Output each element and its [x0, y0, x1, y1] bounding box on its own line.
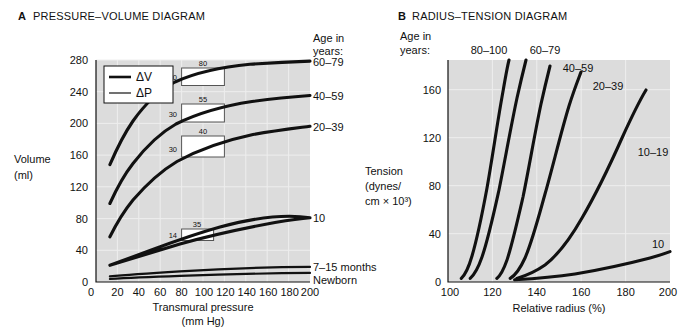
- panel-b-x-ticks: 100 120 140 160 180 200: [441, 286, 677, 298]
- panel-b-label-20-39: 20–39: [593, 80, 624, 92]
- panel-a-ytick: 120: [70, 181, 88, 193]
- panel-b-age-header-line1: Age in: [400, 30, 431, 42]
- panel-a-xtick: 20: [111, 286, 123, 298]
- panel-b-ytick: 80: [429, 180, 441, 192]
- panel-a-xtick: 180: [280, 286, 298, 298]
- panel-a-xtick: 140: [238, 286, 256, 298]
- panel-a-xtick: 60: [154, 286, 166, 298]
- panel-b-xtick: 140: [528, 286, 546, 298]
- panel-a-xtick: 160: [259, 286, 277, 298]
- panel-a-label-7-15-months: 7–15 months: [313, 261, 377, 273]
- panel-a-ytick: 240: [70, 86, 88, 98]
- panel-b-label-80-100: 80–100: [471, 44, 508, 56]
- panel-a-ytick: 40: [76, 244, 88, 256]
- panel-a-xtick: 120: [216, 286, 234, 298]
- legend-label-dv: ΔV: [136, 70, 152, 84]
- panel-b-letter: B: [398, 10, 406, 22]
- panel-b-plot-area: [448, 60, 670, 282]
- panel-b-ytick: 160: [423, 84, 441, 96]
- legend-label-dp: ΔP: [136, 86, 152, 100]
- panel-a-xlabel-line2: (mm Hg): [182, 315, 225, 327]
- figure-container: A PRESSURE–VOLUME DIAGRAM Age in years:: [0, 0, 690, 330]
- panel-b-xtick: 100: [441, 286, 459, 298]
- panel-b-xtick: 200: [659, 286, 677, 298]
- panel-a-xtick: 200: [301, 286, 319, 298]
- panel-a-y-ticks: 280 240 200 160 120 80 40 0: [70, 54, 88, 288]
- panel-a-annot-dp: 14: [169, 231, 177, 240]
- panel-a-letter: A: [18, 10, 26, 22]
- panel-a-annot-dv: 35: [193, 220, 201, 229]
- panel-a-ytick: 200: [70, 117, 88, 129]
- panel-b-xtick: 180: [616, 286, 634, 298]
- panel-b-xtick: 120: [483, 286, 501, 298]
- figure-svg: A PRESSURE–VOLUME DIAGRAM Age in years:: [0, 0, 690, 330]
- panel-b-ylabel-line2: (dynes/: [365, 180, 402, 192]
- panel-b-ytick: 120: [423, 132, 441, 144]
- panel-a-annot-dp: 30: [169, 145, 177, 154]
- panel-a-ytick: 80: [76, 213, 88, 225]
- panel-a-xlabel-line1: Transmural pressure: [152, 301, 253, 313]
- panel-b-ylabel-line3: cm × 10³): [365, 195, 412, 207]
- panel-a-legend: ΔV ΔP: [104, 66, 173, 103]
- panel-b-label-10-19: 10–19: [638, 146, 669, 158]
- panel-b-label-10: 10: [652, 238, 664, 250]
- panel-a-label-newborn: Newborn: [313, 274, 357, 286]
- panel-b-title: RADIUS–TENSION DIAGRAM: [412, 10, 567, 22]
- panel-a-label-10: 10: [313, 212, 325, 224]
- panel-a-ylabel-line1: Volume: [14, 153, 51, 165]
- panel-b-label-40-59: 40–59: [563, 62, 594, 74]
- panel-a: A PRESSURE–VOLUME DIAGRAM Age in years:: [14, 10, 377, 327]
- panel-a-ylabel-line2: (ml): [14, 169, 33, 181]
- panel-b-age-header-line2: years:: [400, 44, 430, 56]
- panel-a-xtick: 100: [195, 286, 213, 298]
- panel-a-xtick: 40: [133, 286, 145, 298]
- panel-a-ytick: 160: [70, 149, 88, 161]
- panel-b: B RADIUS–TENSION DIAGRAM Age in years:: [365, 10, 677, 314]
- panel-b-y-ticks: 160 120 80 40 0: [423, 84, 441, 288]
- panel-a-ytick: 280: [70, 54, 88, 66]
- panel-a-annot-dp: 30: [169, 110, 177, 119]
- panel-a-annot-dv: 40: [199, 127, 207, 136]
- panel-a-xtick: 80: [175, 286, 187, 298]
- panel-a-label-40-59: 40–59: [313, 90, 344, 102]
- panel-a-age-header-line1: Age in: [313, 32, 344, 44]
- panel-a-annot-dv: 55: [199, 95, 207, 104]
- panel-b-ylabel-line1: Tension: [365, 165, 403, 177]
- panel-b-label-60-79: 60–79: [530, 44, 561, 56]
- panel-b-ytick: 40: [429, 228, 441, 240]
- panel-a-annot-dv: 80: [199, 59, 207, 68]
- panel-a-x-ticks: 0 20 40 60 80 100 120 140 160 180 200: [88, 286, 319, 298]
- panel-b-xlabel: Relative radius (%): [513, 302, 606, 314]
- panel-b-xtick: 160: [572, 286, 590, 298]
- panel-a-label-60-79: 60–79: [313, 56, 344, 68]
- panel-a-title: PRESSURE–VOLUME DIAGRAM: [33, 10, 205, 22]
- panel-a-xtick: 0: [88, 286, 94, 298]
- panel-a-label-20-39: 20–39: [313, 121, 344, 133]
